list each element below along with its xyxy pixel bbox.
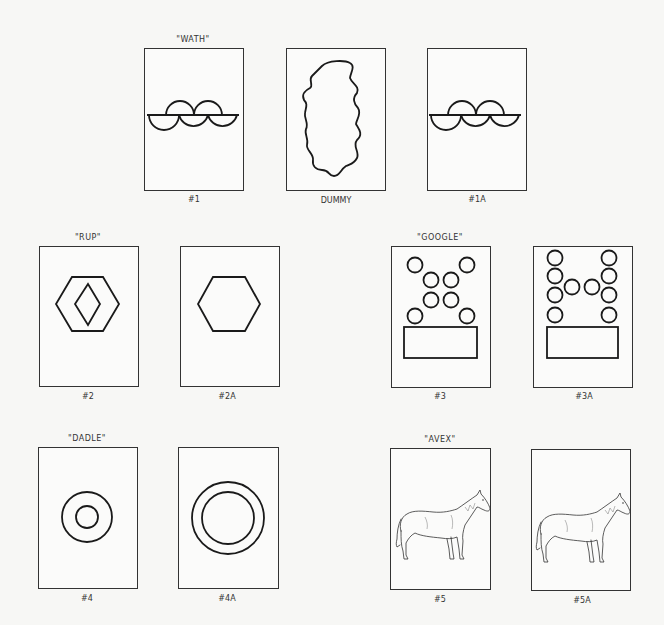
label-1a: #1A bbox=[447, 195, 507, 204]
card-1a bbox=[427, 48, 527, 191]
label-dummy: DUMMY bbox=[306, 196, 366, 205]
label-5a: #5A bbox=[552, 596, 612, 605]
card-1 bbox=[144, 48, 244, 191]
label-2a: #2A bbox=[197, 392, 257, 401]
card-dummy bbox=[286, 48, 386, 191]
card-4 bbox=[38, 447, 138, 589]
word-wath: "WATH" bbox=[133, 35, 253, 44]
label-2: #2 bbox=[58, 392, 118, 401]
card-3a bbox=[533, 246, 633, 388]
label-4a: #4A bbox=[197, 594, 257, 603]
card-2 bbox=[39, 246, 139, 387]
word-avex: "AVEX" bbox=[380, 435, 500, 444]
word-rup: "RUP" bbox=[28, 233, 148, 242]
word-dadle: "DADLE" bbox=[27, 434, 147, 443]
card-3 bbox=[391, 246, 491, 388]
word-google: "GOOGLE" bbox=[380, 233, 500, 242]
card-5a bbox=[531, 449, 631, 591]
label-4: #4 bbox=[57, 594, 117, 603]
label-1: #1 bbox=[164, 195, 224, 204]
card-4a bbox=[178, 447, 279, 589]
card-2a bbox=[180, 246, 280, 387]
card-5 bbox=[390, 448, 491, 590]
label-3: #3 bbox=[410, 392, 470, 401]
label-3a: #3A bbox=[554, 392, 614, 401]
label-5: #5 bbox=[410, 595, 470, 604]
